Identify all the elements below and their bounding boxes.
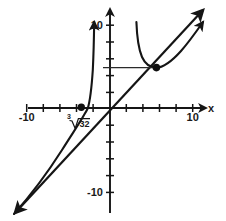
cube-root-32-label: 3 32	[67, 113, 90, 129]
chart-canvas: -10 10 10 -10 x 3 32	[0, 0, 226, 221]
y-tick-label-pos10: 10	[91, 19, 103, 31]
x-intercept-dot	[78, 104, 85, 111]
radicand-32: 32	[80, 119, 90, 129]
x-tick-label-pos10: 10	[187, 111, 199, 123]
y-tick-label-neg10: -10	[87, 186, 103, 198]
minimum-dot	[153, 64, 161, 72]
radical-index: 3	[67, 113, 71, 120]
axes-group	[28, 9, 206, 213]
graph-svg: -10 10 10 -10 x 3 32	[0, 0, 226, 221]
x-axis-name-label: x	[208, 102, 215, 114]
x-tick-label-neg10: -10	[19, 111, 35, 123]
